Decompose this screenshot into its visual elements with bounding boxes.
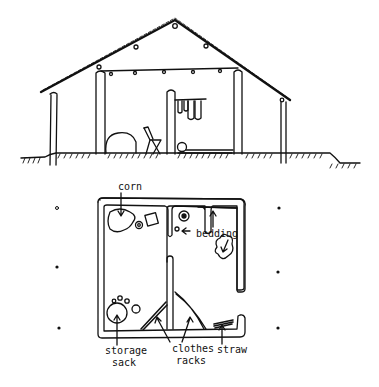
roof-pegs: [97, 24, 284, 102]
small-pot: [136, 222, 143, 229]
corn-arrow: [118, 193, 124, 216]
label-corn: corn: [118, 181, 142, 192]
clothes-rack-left: [141, 302, 167, 330]
house-diagram: corn bedding storage sack clothes racks …: [0, 0, 379, 387]
storage-arrow: [114, 315, 120, 345]
post-left-inner: [96, 71, 105, 154]
label-sack: sack: [112, 357, 136, 368]
center-partition: [167, 256, 173, 329]
ground-hatch: [23, 154, 356, 168]
bedding-down-arrow: [221, 240, 228, 252]
label-bedding: bedding: [196, 228, 238, 239]
floor-plan: [55, 193, 280, 345]
house-elevation: [21, 18, 360, 168]
post-right-outer: [281, 102, 286, 163]
label-straw: straw: [217, 344, 248, 355]
box: [145, 213, 158, 226]
corn-heap-elevation: [106, 133, 136, 153]
bed: [178, 143, 234, 154]
clothes-rack-right: [175, 292, 206, 329]
bedding-arrow: [182, 228, 190, 234]
roof: [41, 20, 290, 100]
post-center: [167, 90, 175, 154]
label-racks: racks: [176, 355, 206, 366]
label-storage: storage: [105, 345, 147, 356]
straw-arrow: [219, 325, 225, 344]
post-right-inner: [234, 70, 242, 154]
ceiling-beam: [101, 68, 238, 71]
clothes-rack-elevation: [175, 99, 206, 120]
left-wall: [98, 202, 245, 338]
label-clothes: clothes: [172, 343, 214, 354]
chair: [144, 127, 161, 154]
